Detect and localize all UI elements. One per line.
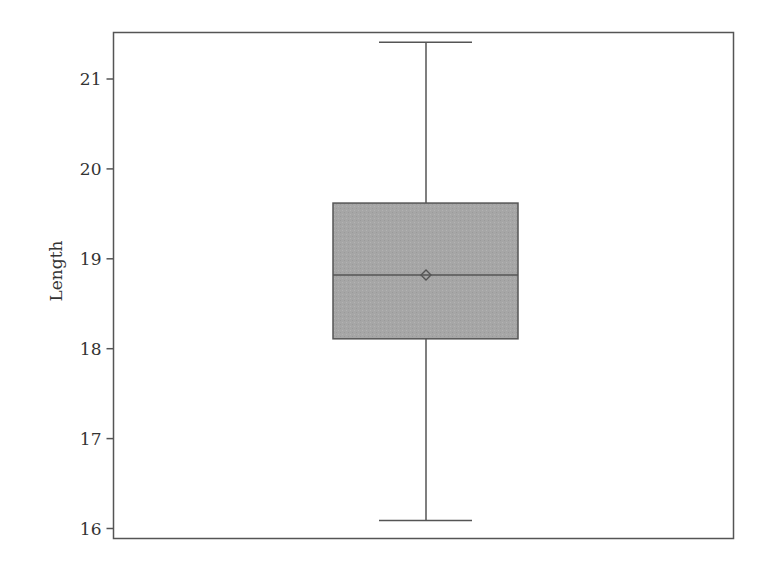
y-tick-label: 20	[80, 159, 102, 179]
y-axis-label: Length	[46, 240, 66, 301]
box-plot: 161718192021 Length	[0, 0, 771, 571]
y-tick-label: 16	[80, 519, 102, 539]
y-tick-label: 17	[80, 429, 102, 449]
y-axis: 161718192021	[80, 69, 114, 539]
y-tick-label: 19	[80, 249, 102, 269]
y-tick-label: 21	[80, 69, 102, 89]
y-tick-label: 18	[80, 339, 102, 359]
